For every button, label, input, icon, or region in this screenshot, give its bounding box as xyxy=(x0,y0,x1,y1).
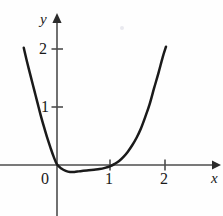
y-tick-label-2: 2 xyxy=(39,41,47,57)
x-tick-label-0: 0 xyxy=(41,171,49,187)
y-tick-label-1: 1 xyxy=(41,99,49,115)
y-axis-arrowhead xyxy=(52,13,61,23)
figure-container: y x 2 1 0 1 2 xyxy=(0,0,223,216)
x-tick-label-2: 2 xyxy=(160,171,168,187)
x-tick-label-1: 1 xyxy=(105,171,113,187)
x-axis-label: x xyxy=(211,171,218,186)
y-axis-label: y xyxy=(40,12,47,27)
x-axis-arrowhead xyxy=(212,160,221,169)
scan-artifact-speck xyxy=(120,26,124,30)
